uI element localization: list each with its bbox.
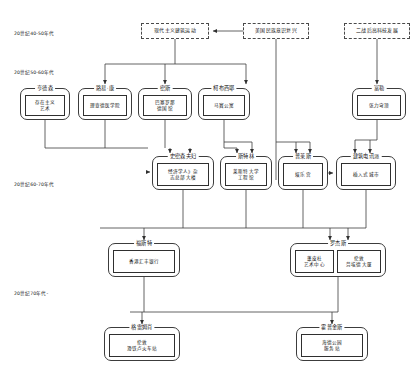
work-item[interactable]: 巴塞罗那德国馆 [143, 95, 187, 116]
node-works: 莱斯特大学工程馆 [221, 157, 271, 189]
work-item[interactable]: 莱斯特大学工程馆 [225, 163, 267, 186]
node-works: 存在主义艺术 [21, 89, 69, 119]
work-item[interactable]: 插入式城市 [341, 163, 391, 186]
era-label: 20世纪50-60年代 [14, 69, 54, 75]
work-item[interactable]: 经济学人》杂志总部大楼 [157, 163, 209, 186]
work-item[interactable]: 理查德医学院 [83, 95, 127, 116]
node-archigram[interactable]: 建筑电讯派 插入式城市 [336, 156, 396, 190]
node-works: 伦敦滑铁卢火车站 [105, 328, 179, 360]
work-item[interactable]: 马赛公寓 [203, 95, 245, 116]
work-item[interactable]: 蓬皮杜艺术中心 [295, 250, 334, 273]
era-label: 20世纪60-70年代 [14, 181, 54, 187]
node-mies[interactable]: 密斯 巴塞罗那德国馆 [138, 88, 192, 120]
node-works: 海德公园服务站 [297, 328, 367, 360]
work-item[interactable]: 伦敦劳埃德大厦 [337, 250, 381, 273]
node-works: 娱乐宫 [279, 157, 327, 189]
node-rogers[interactable]: 罗杰斯 蓬皮杜艺术中心 伦敦劳埃德大厦 [290, 243, 386, 277]
node-works: 蓬皮杜艺术中心 伦敦劳埃德大厦 [291, 244, 385, 276]
influence-node-national-revival[interactable]: 美国民族意识复兴 [243, 23, 309, 39]
work-item[interactable]: 张力穹顶 [357, 95, 401, 116]
work-item[interactable]: 香港汇丰银行 [113, 250, 175, 273]
influence-node-postwar-tech[interactable]: 二战后高科技发展 [344, 23, 410, 39]
diagram-canvas: 20世纪40-50年代 20世纪50-60年代 20世纪60-70年代 20世纪… [0, 0, 420, 387]
node-foster[interactable]: 福斯特 香港汇丰银行 [108, 243, 180, 277]
node-works: 经济学人》杂志总部大楼 [153, 157, 213, 189]
node-fuller[interactable]: 富勒 张力穹顶 [352, 88, 406, 120]
node-price[interactable]: 普莱斯 娱乐宫 [278, 156, 328, 190]
node-works: 马赛公寓 [199, 89, 249, 119]
node-grimshaw[interactable]: 格雷姆肖 伦敦滑铁卢火车站 [104, 327, 180, 361]
node-corbusier[interactable]: 柯布西耶 马赛公寓 [198, 88, 250, 120]
node-henderson[interactable]: 亨德森 存在主义艺术 [20, 88, 70, 120]
work-item[interactable]: 存在主义艺术 [25, 95, 65, 116]
node-hopkins[interactable]: 霍普金斯 海德公园服务站 [296, 327, 368, 361]
node-louis-kahn[interactable]: 路易·康 理查德医学院 [78, 88, 132, 120]
node-works: 理查德医学院 [79, 89, 131, 119]
influence-node-modernism[interactable]: 现代主义建筑运动 [141, 23, 209, 39]
work-item[interactable]: 伦敦滑铁卢火车站 [109, 334, 175, 357]
work-item[interactable]: 娱乐宫 [283, 163, 323, 186]
node-smithsons[interactable]: 史密森夫妇 经济学人》杂志总部大楼 [152, 156, 214, 190]
node-works: 插入式城市 [337, 157, 395, 189]
node-works: 张力穹顶 [353, 89, 405, 119]
work-item[interactable]: 海德公园服务站 [301, 334, 363, 357]
node-works: 香港汇丰银行 [109, 244, 179, 276]
node-stirling[interactable]: 斯特林 莱斯特大学工程馆 [220, 156, 272, 190]
node-works: 巴塞罗那德国馆 [139, 89, 191, 119]
era-label: 20世纪70年代- [14, 290, 48, 296]
era-label: 20世纪40-50年代 [14, 30, 54, 36]
